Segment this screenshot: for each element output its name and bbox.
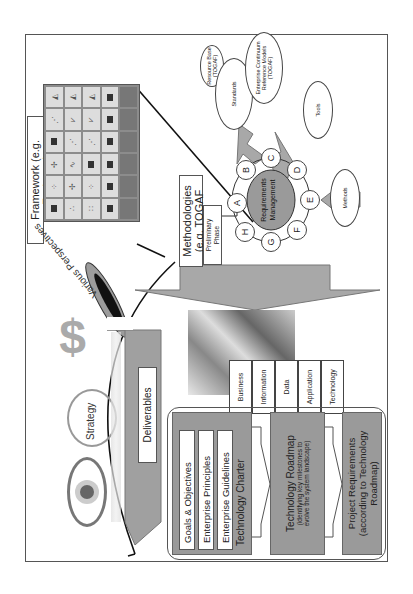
project-req-line3: Roadmap)	[368, 461, 379, 505]
enterprise-guidelines-box: Enterprise Guidelines	[217, 430, 233, 550]
continuum-line3: (TOGAF)	[267, 41, 273, 94]
architecture-tabs: Business Information Data Application Te…	[229, 360, 344, 414]
tab-data: Data	[275, 360, 298, 414]
tab-application: Application	[298, 360, 321, 414]
grid-cell: ⋰	[83, 132, 100, 152]
grid-cell	[46, 199, 63, 219]
tab-information: Information	[252, 360, 275, 414]
phase-f: F	[287, 220, 307, 240]
phase-b: B	[236, 160, 256, 180]
roadmap-title: Technology Roadmap	[285, 435, 296, 532]
tab-application-label: Application	[306, 370, 313, 404]
grid-cell	[102, 199, 119, 219]
phase-e: E	[300, 190, 320, 210]
enterprise-principles-box: Enterprise Principles	[198, 430, 214, 550]
technology-charter-title: Technology Charter	[235, 459, 246, 546]
grid-cell: ✢	[65, 176, 82, 196]
grid-cell	[102, 154, 119, 174]
grid-cell	[102, 109, 119, 129]
grid-cell	[120, 154, 137, 174]
preliminary-line1: Preliminary	[205, 209, 213, 261]
grid-cell: ◭	[65, 87, 82, 107]
tab-business: Business	[229, 360, 252, 414]
technology-roadmap-box: Technology Roadmap (identifying key mile…	[270, 412, 325, 555]
grid-cell: ⋰	[65, 132, 82, 152]
methodologies-label: Methodologies (e.g. TOGAF ADM)	[179, 175, 203, 267]
goals-objectives-box: Goals & Objectives	[179, 430, 195, 550]
project-requirements-box: Project Requirements (according to Techn…	[342, 412, 382, 555]
tab-data-label: Data	[283, 380, 290, 395]
tab-information-label: Information	[260, 369, 267, 404]
grid-cell: ✢	[46, 154, 63, 174]
tools-ellipse: Tools	[303, 81, 333, 139]
grid-cell	[83, 154, 100, 174]
grid-cell	[120, 176, 137, 196]
grid-cell	[120, 87, 137, 107]
grid-cell: ⩗	[65, 109, 82, 129]
roadmap-subtitle-1: (identifying key milestones to	[296, 442, 303, 525]
grid-cell	[102, 132, 119, 152]
project-req-line2: (according to Technology	[357, 431, 368, 536]
grid-cell	[102, 87, 119, 107]
technology-charter-box: Goals & Objectives Enterprise Principles…	[172, 412, 252, 555]
methodologies-label-line1: Methodologies	[181, 179, 193, 263]
preliminary-line2: Phase	[213, 209, 221, 261]
strategy-bands	[111, 332, 121, 522]
deliverables-label: Deliverables	[138, 367, 157, 463]
phase-c: C	[261, 148, 281, 168]
requirements-line2: Management	[268, 170, 277, 230]
grid-cell: ⋰	[46, 109, 63, 129]
grid-cell	[46, 132, 63, 152]
grid-cell	[120, 132, 137, 152]
grid-cell: ⁘	[46, 176, 63, 196]
requirements-management: Requirements Management	[259, 170, 283, 230]
preliminary-phase-box: Preliminary Phase	[203, 205, 222, 265]
grid-cell	[102, 176, 119, 196]
grid-cell: ∷	[83, 199, 100, 219]
grid-cell: ⁘	[83, 176, 100, 196]
grid-cell	[120, 109, 137, 129]
grid-cell: ∿	[65, 154, 82, 174]
project-req-line1: Project Requirements	[346, 438, 357, 529]
methods-ellipse: Methods	[330, 169, 360, 227]
zachman-grid: ⁘ ✢ ⋰ ◭ ∴ ✢ ∿ ⋰ ⩗ ◭ ∷ ⁘ ⋰ ⩗ ◭	[43, 84, 140, 222]
phase-h: H	[235, 222, 255, 242]
phase-d: D	[287, 160, 307, 180]
grid-cell	[120, 199, 137, 219]
grid-cell: ⩗	[83, 109, 100, 129]
grid-cell: ◭	[83, 87, 100, 107]
strategy-label: Strategy	[85, 403, 96, 440]
tools-label: Tools	[315, 104, 321, 117]
tab-business-label: Business	[237, 373, 244, 401]
tab-technology-label: Technology	[329, 369, 336, 404]
enterprise-continuum-ellipse: Enterprise Continuum Reference Models (T…	[245, 32, 283, 104]
grid-cell: ◭	[46, 87, 63, 107]
eye-icon	[67, 457, 107, 527]
roadmap-subtitle-2: evolve the system landscape)	[303, 441, 310, 527]
phase-g: G	[261, 232, 281, 252]
grid-cell: ∴	[65, 199, 82, 219]
diagram-canvas: Framework (e.g. Zachman) ⁘ ✢ ⋰ ◭ ∴ ✢ ∿ ⋰…	[25, 34, 388, 562]
dollar-icon: $	[45, 302, 100, 372]
requirements-line1: Requirements	[259, 170, 268, 230]
methods-label: Methods	[342, 187, 348, 208]
phase-a: A	[227, 193, 247, 213]
standards-label: Standards	[231, 81, 237, 106]
tab-technology: Technology	[321, 360, 344, 414]
